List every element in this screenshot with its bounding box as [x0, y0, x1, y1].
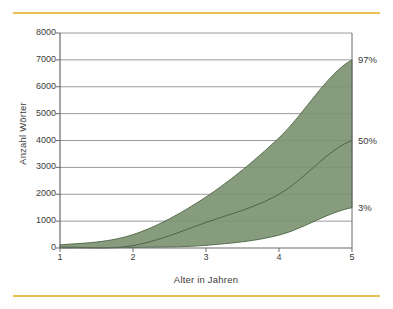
y-axis-tick-label: 5000: [16, 108, 56, 118]
chart-page: Anzahl Wörter Alter in Jahren 0100020003…: [0, 0, 393, 309]
percentile-chart-figure: Anzahl Wörter Alter in Jahren 0100020003…: [0, 0, 393, 309]
percentile-label: 3%: [358, 202, 372, 213]
y-axis-tick-label: 2000: [16, 188, 56, 198]
chart-plot-area: [0, 0, 393, 309]
percentile-label: 97%: [358, 54, 377, 65]
y-axis-tick-label: 7000: [16, 54, 56, 64]
y-axis-tick-label: 1000: [16, 215, 56, 225]
y-axis-tick-label: 4000: [16, 135, 56, 145]
x-axis-tick-label: 5: [342, 252, 362, 262]
percentile-band: [60, 60, 352, 248]
y-axis-tick-label: 8000: [16, 27, 56, 37]
y-axis-tick-label: 0: [16, 242, 56, 252]
y-axis-tick-label: 3000: [16, 161, 56, 171]
x-axis-tick-label: 3: [196, 252, 216, 262]
y-axis-tick-label: 6000: [16, 81, 56, 91]
x-axis-tick-label: 4: [269, 252, 289, 262]
percentile-label: 50%: [358, 135, 377, 146]
x-axis-tick-label: 2: [123, 252, 143, 262]
x-axis-tick-label: 1: [50, 252, 70, 262]
x-axis-title: Alter in Jahren: [60, 274, 352, 285]
